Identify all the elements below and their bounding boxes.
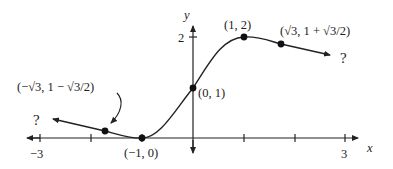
point-label-sqrt3: (√3, 1 + √3/2): [280, 24, 350, 38]
point-label-1-2: (1, 2): [224, 18, 251, 32]
point-1-2: [241, 34, 248, 41]
x-axis-label: x: [366, 141, 373, 155]
graph-canvas: y x −3 3 2 (−√3, 1 − √3/2) (−1, 0) (0, 1…: [0, 0, 393, 169]
point-neg-sqrt3: [102, 128, 109, 135]
point-neg1-0: [139, 135, 146, 142]
y-tick-label-2: 2: [178, 31, 184, 45]
point-0-1: [190, 85, 197, 92]
function-graph-diagram: y x −3 3 2 (−√3, 1 − √3/2) (−1, 0) (0, 1…: [0, 0, 393, 169]
right-extension-arrow: [281, 44, 330, 55]
x-tick-label-neg3: −3: [30, 147, 43, 161]
callout-arrow: [111, 93, 121, 123]
point-label-neg1-0: (−1, 0): [124, 146, 158, 160]
y-axis-label: y: [182, 8, 190, 22]
point-label-neg-sqrt3: (−√3, 1 − √3/2): [17, 80, 94, 94]
x-tick-label-3: 3: [341, 147, 347, 161]
point-sqrt3: [278, 41, 285, 48]
left-extension-arrow: [53, 119, 105, 131]
right-question-mark: ?: [340, 50, 347, 66]
point-label-0-1: (0, 1): [198, 86, 225, 100]
left-question-mark: ?: [33, 112, 40, 128]
